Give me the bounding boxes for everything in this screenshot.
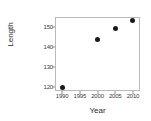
- x-axis-tick-mark: [132, 91, 133, 94]
- y-axis-tick-mark: [52, 67, 55, 68]
- y-axis-tick-mark: [52, 47, 55, 48]
- x-axis-title: Year: [55, 106, 140, 115]
- data-point: [130, 18, 135, 23]
- x-axis-tick-mark: [62, 91, 63, 94]
- y-axis-tick-mark: [52, 87, 55, 88]
- x-axis-tick-labels: 19901995200020052010: [0, 93, 151, 105]
- x-axis-tick-mark: [115, 91, 116, 94]
- plot-area: [55, 17, 140, 91]
- data-point: [95, 37, 100, 42]
- x-axis-tick-mark: [79, 91, 80, 94]
- data-point: [60, 85, 65, 90]
- scatter-chart: 120130140150 Length 19901995200020052010…: [0, 0, 151, 121]
- x-axis-tick-mark: [97, 91, 98, 94]
- y-axis-tick-mark: [52, 27, 55, 28]
- y-axis-title: Length: [6, 5, 15, 65]
- data-point: [113, 26, 118, 31]
